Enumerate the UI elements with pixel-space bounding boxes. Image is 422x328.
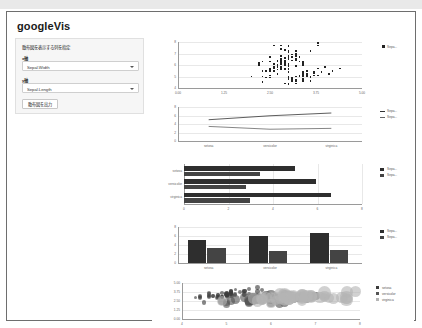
bubble-point xyxy=(194,296,198,300)
bar xyxy=(184,185,246,189)
gridline xyxy=(362,164,363,204)
y-axis-category: versicolor xyxy=(153,182,182,186)
data-point xyxy=(288,78,290,80)
bar xyxy=(184,166,295,170)
y-axis-tick: 6 xyxy=(156,63,176,67)
legend-label: Sepa... xyxy=(387,109,397,113)
legend-marker xyxy=(376,286,379,289)
scatter-chart-panel[interactable]: 456780.001.252.503.755.00Sepa... xyxy=(152,36,414,100)
legend-marker xyxy=(380,111,385,112)
data-point xyxy=(291,80,293,82)
browser-top-strip xyxy=(0,0,422,9)
data-point xyxy=(288,68,290,70)
legend-marker xyxy=(380,230,384,233)
data-point xyxy=(269,68,271,70)
data-point xyxy=(258,64,260,66)
legend-marker xyxy=(376,292,379,295)
x-axis-line xyxy=(178,263,362,264)
data-point xyxy=(317,75,319,77)
gridline xyxy=(318,164,319,204)
legend-label: versicolor xyxy=(382,292,396,296)
bar xyxy=(310,233,328,263)
bubble-point xyxy=(261,292,271,302)
bubble-chart-panel[interactable]: 0.001.252.503.755.0045678setosaversicolo… xyxy=(152,279,414,328)
x-axis-select[interactable]: Sepal.Width xyxy=(22,61,139,71)
data-point xyxy=(288,65,290,67)
x-axis-tick: 0.00 xyxy=(171,91,185,95)
line-chart-panel[interactable]: 02468setosaversicolorvirginicaSepa...Sep… xyxy=(152,103,414,153)
gridline xyxy=(178,227,362,228)
legend-marker xyxy=(380,236,384,239)
page-title: googleVis xyxy=(17,20,70,32)
data-point xyxy=(302,78,304,80)
legend-marker xyxy=(380,117,385,118)
gridline xyxy=(178,236,362,237)
x-axis-tick: 0 xyxy=(177,207,191,211)
data-point xyxy=(280,55,282,57)
data-point xyxy=(313,72,315,74)
data-point xyxy=(291,60,293,62)
gridline xyxy=(182,310,360,311)
plot-button[interactable]: 散布図を出力 xyxy=(22,99,58,109)
x-axis-line xyxy=(178,88,362,89)
x-axis-line xyxy=(182,319,360,320)
x-axis-tick: 8 xyxy=(355,207,369,211)
bubble-point xyxy=(198,294,202,298)
data-point xyxy=(265,77,267,79)
y-axis-select[interactable]: Sepal.Length xyxy=(22,83,139,93)
data-point xyxy=(302,64,304,66)
legend-label: Sepa... xyxy=(387,173,397,177)
x-axis-tick: 4 xyxy=(175,322,189,326)
bar xyxy=(330,250,348,263)
data-point xyxy=(310,77,312,79)
legend-label: Sepa... xyxy=(387,115,397,119)
data-point xyxy=(299,61,301,63)
legend-label: Sepa... xyxy=(387,235,397,239)
bubble-point xyxy=(217,296,227,306)
vertical-bar-chart-panel[interactable]: 02468setosaversicolorvirginicaSepa...Sep… xyxy=(152,223,414,275)
data-point xyxy=(299,76,301,78)
x-axis-category: virginica xyxy=(316,266,346,270)
data-point xyxy=(269,70,271,72)
legend-marker xyxy=(376,298,379,301)
y-axis-tick: 5.00 xyxy=(156,281,180,285)
x-axis-select-value: Sepal.Width xyxy=(27,65,50,70)
y-axis-tick: 5 xyxy=(156,75,176,79)
data-point xyxy=(284,68,286,70)
data-point xyxy=(280,61,282,63)
gridline xyxy=(178,54,362,55)
x-axis-tick: 5 xyxy=(220,322,234,326)
y-axis-tick: 6 xyxy=(156,234,176,238)
data-point xyxy=(328,73,330,75)
bar xyxy=(184,198,250,202)
data-point xyxy=(302,71,304,73)
data-point xyxy=(339,68,341,70)
line-series-group xyxy=(152,103,414,153)
gridline xyxy=(182,283,360,284)
data-point xyxy=(273,70,275,72)
x-axis-tick: 5.00 xyxy=(355,91,369,95)
data-point xyxy=(251,76,253,78)
data-point xyxy=(288,45,290,47)
data-point xyxy=(288,58,290,60)
data-point xyxy=(277,61,279,63)
gridline xyxy=(178,65,362,66)
y-axis-line xyxy=(182,283,183,319)
bar xyxy=(184,172,260,176)
data-point xyxy=(269,77,271,79)
x-axis-tick: 6 xyxy=(264,322,278,326)
x-axis-tick: 1.25 xyxy=(217,91,231,95)
data-point xyxy=(317,68,319,70)
data-point xyxy=(280,48,282,50)
data-point xyxy=(302,62,304,64)
data-point xyxy=(299,56,301,58)
y-axis-tick: 8 xyxy=(156,225,176,229)
y-axis-tick: 1.25 xyxy=(156,308,180,312)
horizontal-bar-chart-panel[interactable]: 02468setosaversicolorvirginicaSepa...Sep… xyxy=(152,160,414,217)
data-point xyxy=(269,61,271,63)
y-axis-line xyxy=(178,227,179,263)
data-point xyxy=(284,49,286,51)
data-point xyxy=(277,73,279,75)
panel-instruction: 散布図を表示する列を指定 xyxy=(22,44,70,50)
data-point xyxy=(295,65,297,67)
